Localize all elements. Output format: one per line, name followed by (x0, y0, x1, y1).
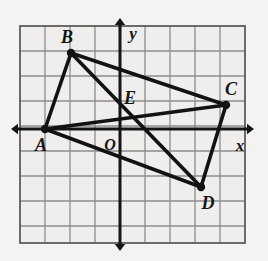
x-axis-label: x (235, 136, 245, 155)
vertex-label-D: D (201, 193, 215, 213)
coordinate-plane-figure: ABCDE x y O (0, 0, 268, 261)
vertex-label-B: B (60, 27, 73, 47)
vertex-label-A: A (34, 135, 47, 155)
vertex-dot-C (222, 101, 230, 109)
vertex-label-C: C (225, 79, 238, 99)
vertex-dot-B (67, 49, 75, 57)
y-axis-label: y (127, 24, 137, 43)
figure-canvas: ABCDE x y O (0, 0, 268, 261)
origin-label: O (104, 136, 116, 153)
vertex-dot-A (41, 125, 49, 133)
vertex-dot-D (197, 183, 205, 191)
vertex-label-E: E (123, 88, 136, 108)
